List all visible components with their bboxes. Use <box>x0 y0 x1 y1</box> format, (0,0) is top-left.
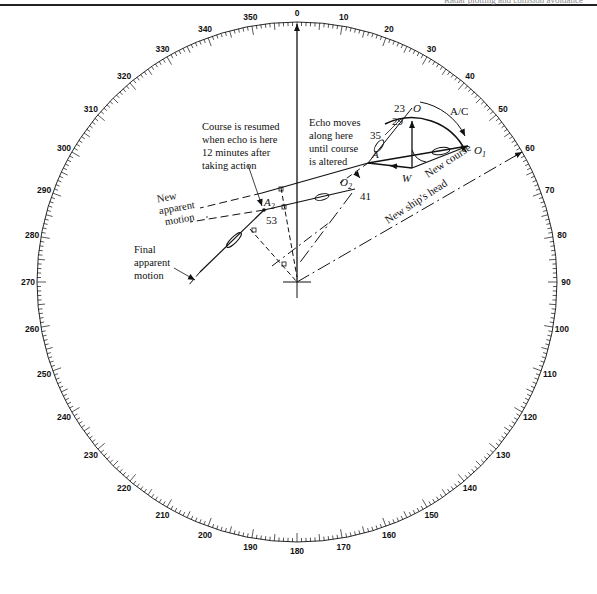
ring-tick <box>516 148 520 150</box>
ring-tick <box>525 398 529 400</box>
ring-tick <box>141 74 143 77</box>
ring-tick <box>230 31 232 38</box>
note-final-line-2: apparent <box>134 257 170 268</box>
ring-tick <box>397 43 399 47</box>
ring-tick <box>89 436 92 438</box>
ring-label-130: 130 <box>496 450 510 460</box>
ring-tick <box>487 108 490 111</box>
ring-tick <box>380 36 381 40</box>
ring-tick <box>265 536 266 540</box>
ring-tick <box>171 506 173 510</box>
ring-tick <box>79 421 82 423</box>
ring-tick <box>496 118 499 121</box>
note-final-apparent-motion: Final apparent motion <box>134 244 173 281</box>
ring-tick <box>401 516 403 520</box>
ring-tick <box>200 41 202 45</box>
angle-arc <box>412 150 426 162</box>
ring-tick <box>163 59 165 63</box>
ring-tick <box>465 86 468 89</box>
ring-tick <box>167 499 172 507</box>
ring-tick <box>521 406 525 408</box>
ring-label-280: 280 <box>25 230 39 240</box>
ring-tick <box>509 137 512 139</box>
ring-tick <box>533 368 541 371</box>
ring-tick <box>433 499 435 502</box>
ring-label-110: 110 <box>543 369 557 379</box>
new-apparent-motion-line <box>264 189 355 210</box>
ring-tick <box>533 193 541 196</box>
ring-tick <box>208 38 211 46</box>
ring-tick <box>551 313 555 314</box>
ring-tick <box>442 489 446 495</box>
note-echo-line-4: is altered <box>309 156 348 167</box>
ring-tick <box>549 259 556 260</box>
ring-tick <box>212 524 213 528</box>
ring-tick <box>144 489 146 492</box>
ring-label-0: 0 <box>295 8 300 18</box>
ring-label-30: 30 <box>427 44 437 54</box>
ring-tick <box>409 48 411 52</box>
ring-tick <box>455 77 458 80</box>
ring-tick <box>217 526 218 530</box>
ring-tick <box>404 46 407 52</box>
ring-tick <box>413 50 415 54</box>
ring-tick <box>208 518 211 526</box>
ring-tick <box>87 433 90 435</box>
ring-tick <box>472 92 475 95</box>
ring-tick <box>155 497 157 500</box>
label-time-29: 29 <box>392 115 404 127</box>
ring-tick <box>476 98 481 103</box>
ring-tick <box>545 344 549 345</box>
note-resumed-line-4: taking action <box>202 160 257 171</box>
note-resumed-line-1: Course is resumed <box>202 121 280 132</box>
ring-tick <box>489 443 496 449</box>
label-ac: A/C <box>450 105 468 117</box>
ring-tick <box>45 219 49 220</box>
ring-tick <box>368 528 369 532</box>
ring-tick <box>53 368 61 371</box>
ring-tick <box>526 389 532 392</box>
ring-label-210: 210 <box>155 510 169 520</box>
ring-label-240: 240 <box>57 412 71 422</box>
ring-tick <box>451 74 453 77</box>
ring-tick <box>397 518 399 522</box>
ring-label-40: 40 <box>465 71 475 81</box>
ring-tick <box>548 232 552 233</box>
ring-tick <box>359 530 360 534</box>
note-course-resumed: Course is resumed when echo is here 12 m… <box>202 121 282 171</box>
ring-tick <box>187 511 190 517</box>
ring-tick <box>63 168 67 170</box>
ring-label-140: 140 <box>463 483 477 493</box>
ring-tick <box>230 526 232 533</box>
ring-tick <box>42 232 46 233</box>
ring-tick <box>417 52 419 56</box>
ring-tick <box>95 443 98 446</box>
ring-tick <box>92 122 95 125</box>
ring-tick <box>389 39 391 43</box>
label-time-35: 35 <box>370 129 382 141</box>
ring-tick <box>533 180 537 182</box>
ring-tick <box>40 241 44 242</box>
label-O1-sub: 1 <box>482 150 486 159</box>
ring-tick <box>514 418 517 420</box>
ring-tick <box>481 460 484 463</box>
cpa-line-3 <box>272 222 330 266</box>
ring-tick <box>39 250 43 251</box>
ring-tick <box>261 25 262 29</box>
ring-tick <box>191 516 193 520</box>
ring-tick <box>350 532 351 536</box>
ring-tick <box>225 528 226 532</box>
ring-tick <box>504 133 510 137</box>
ring-tick <box>523 402 527 404</box>
ring-tick <box>107 105 110 108</box>
ring-tick <box>155 64 157 67</box>
ring-tick <box>179 510 181 514</box>
ring-tick <box>516 414 520 416</box>
ring-tick <box>70 156 74 158</box>
ring-tick <box>468 472 471 475</box>
ring-label-270: 270 <box>21 277 35 287</box>
ring-tick <box>423 499 428 507</box>
ring-tick <box>542 357 546 358</box>
ring-tick <box>504 129 507 131</box>
ring-tick <box>525 164 529 166</box>
